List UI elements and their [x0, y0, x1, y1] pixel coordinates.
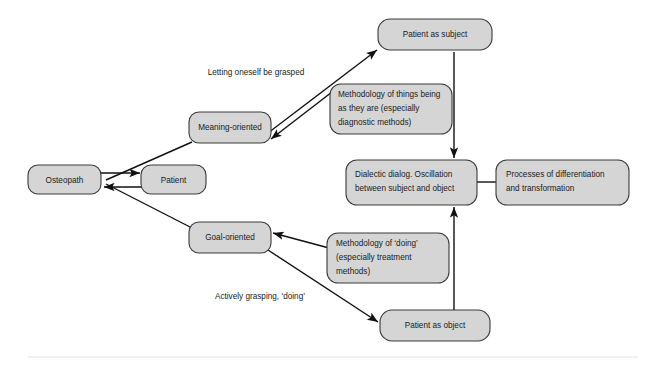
- node-meaning-oriented[interactable]: Meaning-oriented: [189, 112, 271, 143]
- node-processes-shape: [496, 160, 629, 205]
- node-patient-as-subject-label: Patient as subject: [403, 30, 468, 39]
- node-meaning-oriented-label: Meaning-oriented: [198, 123, 262, 132]
- node-osteopath-label: Osteopath: [46, 176, 84, 185]
- node-methodology-being-line1: Methodology of things being: [338, 90, 441, 99]
- edge-label-actively-grasping-doing: Actively grasping, ‘doing’: [215, 292, 305, 301]
- node-methodology-doing-line1: Methodology of ‘doing’: [336, 239, 418, 248]
- diagram-canvas: Osteopath Patient Meaning-oriented Goal-…: [0, 0, 653, 365]
- node-osteopath[interactable]: Osteopath: [28, 165, 101, 194]
- node-patient-label: Patient: [161, 176, 187, 185]
- node-methodology-doing[interactable]: Methodology of ‘doing’ (especially treat…: [327, 233, 449, 283]
- node-goal-oriented[interactable]: Goal-oriented: [189, 222, 271, 253]
- node-methodology-being-line3: diagnostic methods): [338, 118, 412, 127]
- edge-label-letting-oneself-be-grasped: Letting oneself be grasped: [208, 68, 305, 77]
- node-patient-as-object-label: Patient as object: [405, 321, 466, 330]
- node-methodology-doing-line2: (especially treatment: [336, 253, 412, 262]
- node-methodology-being[interactable]: Methodology of things being as they are …: [330, 84, 452, 134]
- edge-methodology-being-to-meaning: [271, 92, 332, 139]
- node-patient[interactable]: Patient: [141, 165, 206, 194]
- node-dialectic-dialog[interactable]: Dialectic dialog. Oscillation between su…: [346, 160, 477, 205]
- node-patient-as-subject[interactable]: Patient as subject: [378, 19, 492, 50]
- node-processes-line1: Processes of differentiation: [506, 170, 605, 179]
- node-processes[interactable]: Processes of differentiation and transfo…: [496, 160, 629, 205]
- diagram-svg: Osteopath Patient Meaning-oriented Goal-…: [0, 0, 653, 365]
- node-dialectic-dialog-line1: Dialectic dialog. Oscillation: [355, 170, 453, 179]
- edge-methodology-doing-to-goal: [273, 233, 329, 248]
- node-dialectic-dialog-shape: [346, 160, 477, 205]
- node-methodology-being-line2: as they are (especially: [338, 104, 420, 113]
- node-dialectic-dialog-line2: between subject and object: [355, 184, 455, 193]
- node-processes-line2: and transformation: [506, 184, 575, 193]
- node-patient-as-object[interactable]: Patient as object: [380, 310, 490, 341]
- node-goal-oriented-label: Goal-oriented: [205, 233, 255, 242]
- node-methodology-doing-line3: methods): [336, 267, 370, 276]
